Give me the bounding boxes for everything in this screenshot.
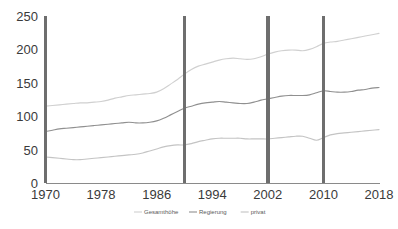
y-tick-label: 150 <box>16 76 38 91</box>
legend-label-regierung: Regierung <box>199 209 227 215</box>
chart-container: 050100150200250 197019781986199420022010… <box>0 0 398 229</box>
series-line-gesamthhe <box>46 33 380 106</box>
marker-bars <box>44 16 326 183</box>
y-tick-label: 100 <box>16 109 38 124</box>
marker-bar-2002 <box>266 16 270 183</box>
series-line-regierung <box>46 87 380 131</box>
x-axis-labels: 1970197819861994200220102018 <box>31 187 393 202</box>
marker-bar-1990 <box>183 16 187 183</box>
y-tick-label: 50 <box>24 143 38 158</box>
line-chart: 050100150200250 197019781986199420022010… <box>0 0 398 229</box>
x-tick-label: 1970 <box>31 187 60 202</box>
legend-label-privat: privat <box>251 209 266 215</box>
y-axis-labels: 050100150200250 <box>16 9 38 191</box>
x-tick-label: 2010 <box>309 187 338 202</box>
y-tick-label: 250 <box>16 9 38 24</box>
x-tick-label: 1994 <box>198 187 227 202</box>
x-tick-label: 2002 <box>253 187 282 202</box>
marker-bar-2010 <box>322 16 326 183</box>
marker-bar-1970 <box>44 16 48 183</box>
series-line-privat <box>46 130 380 160</box>
legend-label-gesamthhe: Gesamthöhe <box>144 209 179 215</box>
chart-legend: GesamthöheRegierungprivat <box>134 209 266 215</box>
x-tick-label: 1986 <box>142 187 171 202</box>
y-tick-label: 200 <box>16 42 38 57</box>
x-tick-label: 2018 <box>365 187 394 202</box>
x-tick-label: 1978 <box>87 187 116 202</box>
series-lines <box>46 33 380 159</box>
